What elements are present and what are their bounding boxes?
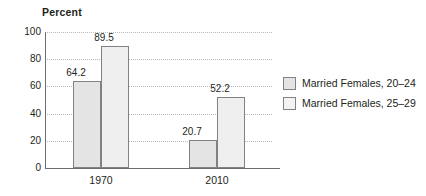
y-axis-tick-labels: 100 80 60 40 20 0 bbox=[0, 0, 41, 196]
plot-area bbox=[45, 32, 272, 168]
data-label-1970-20-24: 64.2 bbox=[59, 68, 93, 78]
y-tick-label-80: 80 bbox=[7, 54, 41, 64]
bar-chart-figure: Percent 100 80 60 40 20 0 64.2 89.5 20.7… bbox=[0, 0, 426, 196]
data-label-1970-25-29: 89.5 bbox=[87, 33, 121, 43]
bar-2010-married-females-20-24[interactable] bbox=[189, 140, 217, 168]
y-tick-label-40: 40 bbox=[7, 109, 41, 119]
bar-2010-married-females-25-29[interactable] bbox=[217, 97, 245, 168]
chart-legend: Married Females, 20–24 Married Females, … bbox=[283, 74, 416, 114]
y-tick-label-20: 20 bbox=[7, 136, 41, 146]
bar-1970-married-females-20-24[interactable] bbox=[73, 81, 101, 168]
y-axis-title: Percent bbox=[42, 6, 82, 18]
legend-swatch-icon-series-1 bbox=[283, 97, 296, 110]
data-label-2010-25-29: 52.2 bbox=[203, 84, 237, 94]
data-label-2010-20-24: 20.7 bbox=[175, 127, 209, 137]
legend-label-series-0: Married Females, 20–24 bbox=[302, 77, 416, 89]
gridline-80 bbox=[45, 59, 272, 60]
y-tick-label-60: 60 bbox=[7, 81, 41, 91]
y-tick-label-0: 0 bbox=[7, 163, 41, 173]
legend-item-married-females-25-29[interactable]: Married Females, 25–29 bbox=[283, 94, 416, 112]
legend-item-married-females-20-24[interactable]: Married Females, 20–24 bbox=[283, 74, 416, 92]
x-tick-label-1970: 1970 bbox=[73, 174, 129, 186]
gridline-100 bbox=[45, 32, 272, 33]
y-axis-line bbox=[45, 32, 46, 169]
legend-swatch-icon-series-0 bbox=[283, 77, 296, 90]
legend-label-series-1: Married Females, 25–29 bbox=[302, 97, 416, 109]
x-axis-line bbox=[45, 168, 280, 169]
y-tick-label-100: 100 bbox=[7, 27, 41, 37]
bar-1970-married-females-25-29[interactable] bbox=[101, 46, 129, 168]
x-tick-label-2010: 2010 bbox=[189, 174, 245, 186]
